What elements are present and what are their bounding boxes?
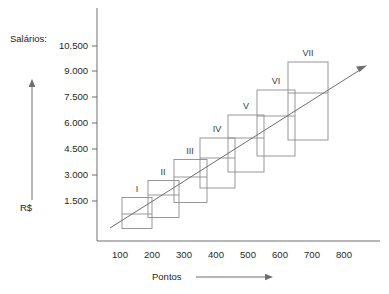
- salary-band-IV: [200, 138, 235, 188]
- y-tick-label-7500: 7.500: [40, 92, 88, 102]
- salary-band-V: [228, 115, 264, 172]
- y-direction-arrow-icon: [29, 79, 36, 200]
- x-tick-label-800: 800: [328, 250, 360, 260]
- salary-band-VII: [288, 62, 328, 140]
- y-tick-label-1500: 1.500: [40, 196, 88, 206]
- x-tick-label-600: 600: [264, 250, 296, 260]
- band-label-IV: IV: [204, 125, 230, 134]
- band-label-III: III: [177, 147, 203, 156]
- trend-line: [110, 66, 367, 229]
- y-axis-unit-label: R$: [20, 203, 32, 213]
- x-tick-label-700: 700: [296, 250, 328, 260]
- band-label-II: II: [150, 168, 176, 177]
- x-axis-title: Pontos: [152, 272, 182, 282]
- y-tick-label-4500: 4.500: [40, 144, 88, 154]
- x-tick-label-400: 400: [200, 250, 232, 260]
- x-tick-label-200: 200: [136, 250, 168, 260]
- x-tick-label-100: 100: [104, 250, 136, 260]
- band-label-VII: VII: [295, 49, 321, 58]
- band-label-V: V: [233, 102, 259, 111]
- x-tick-label-500: 500: [232, 250, 264, 260]
- y-axis-ticks: [92, 46, 97, 201]
- salary-band-I: [122, 198, 152, 229]
- salary-band-chart: Salários: R$ Pontos 1.500 3.000 4.500 6.…: [0, 0, 389, 294]
- y-tick-label-6000: 6.000: [40, 118, 88, 128]
- salary-bands-group: [122, 62, 328, 229]
- y-tick-label-9000: 9.000: [40, 66, 88, 76]
- y-tick-label-3000: 3.000: [40, 170, 88, 180]
- x-direction-arrow-icon: [196, 274, 273, 280]
- x-tick-label-300: 300: [168, 250, 200, 260]
- band-label-I: I: [124, 185, 150, 194]
- y-tick-label-10500: 10.500: [40, 41, 88, 51]
- band-label-VI: VI: [263, 77, 289, 86]
